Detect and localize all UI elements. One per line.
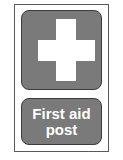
label-panel: First aid post (21, 98, 102, 145)
sign-label-line2: post (46, 122, 78, 138)
sign-label-line1: First aid (32, 106, 90, 122)
cross-horizontal-bar (38, 40, 95, 61)
